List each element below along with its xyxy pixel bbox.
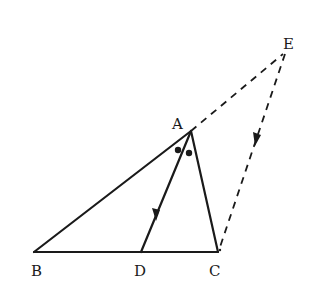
segment-ab [34,131,191,252]
label-d: D [134,262,146,280]
label-c: C [209,262,220,280]
angle-mark-dot-1 [175,147,181,153]
segment-ac [191,131,218,252]
vertex-c-dot [219,249,221,251]
label-a: A [171,115,183,133]
geometry-diagram: A B D C E [0,0,320,301]
angle-mark-dot-2 [186,150,192,156]
label-b: B [31,262,42,280]
segment-ec-dashed [219,54,285,250]
segment-ae-dashed [191,54,283,131]
arrowhead-ad-icon [152,208,160,221]
label-e: E [283,35,294,53]
